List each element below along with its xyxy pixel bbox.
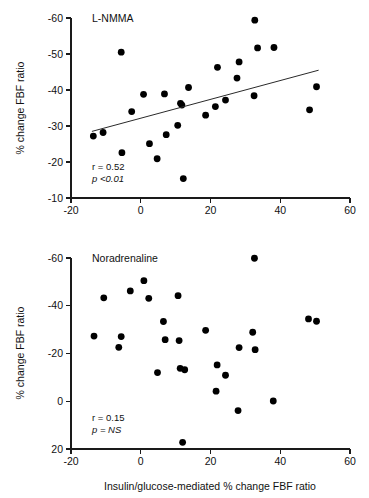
x-tick-label-top-1: 0 [138, 204, 144, 216]
x-tick-label-top-0: -20 [63, 204, 78, 216]
scatter-plot-l-nmma: -60-50-40-30-20-10 -200204060 L-NMMA r =… [0, 0, 369, 232]
data-point [118, 333, 125, 340]
data-point [236, 344, 243, 351]
data-point [270, 398, 277, 405]
data-point [145, 295, 152, 302]
data-point [140, 91, 147, 98]
y-ticks-bottom: -60-40-20020 [48, 252, 71, 455]
data-point [161, 91, 168, 98]
data-point [146, 140, 153, 147]
x-tick-label-top-4: 60 [344, 204, 356, 216]
data-point [90, 133, 97, 140]
y-tick-label-bot-3: 0 [57, 395, 63, 407]
data-point [213, 388, 220, 395]
data-point [127, 288, 134, 295]
data-point [235, 407, 242, 414]
data-point [181, 366, 188, 373]
data-point [163, 131, 170, 138]
data-point [236, 59, 243, 66]
data-point [180, 175, 187, 182]
y-tick-label-bot-4: 20 [51, 443, 63, 455]
y-tick-label-top-0: -60 [48, 12, 63, 24]
data-point [176, 337, 183, 344]
data-point [222, 97, 229, 104]
x-tick-label-bot-2: 20 [205, 455, 217, 467]
x-tick-label-bot-1: 0 [138, 455, 144, 467]
data-point [251, 17, 258, 24]
x-tick-label-top-2: 20 [205, 204, 217, 216]
y-tick-label-bot-2: -20 [48, 347, 63, 359]
data-point [154, 369, 161, 376]
panel-l-nmma: -60-50-40-30-20-10 -200204060 L-NMMA r =… [0, 0, 369, 232]
data-point [251, 255, 258, 262]
regression-line-top [92, 70, 319, 131]
stat-correlation-bottom: r = 0.15 [92, 412, 124, 423]
x-ticks-top: -200204060 [63, 198, 356, 216]
x-tick-label-bot-0: -20 [63, 455, 78, 467]
data-point [214, 362, 221, 369]
data-point [305, 315, 312, 322]
x-tick-label-bot-4: 60 [344, 455, 356, 467]
data-point [162, 336, 169, 343]
data-point [252, 346, 259, 353]
data-points-top [90, 17, 320, 182]
scatter-plot-noradrenaline: -60-40-20020 -200204060 Noradrenaline r … [0, 240, 369, 498]
y-tick-label-top-2: -40 [48, 84, 63, 96]
data-points-bottom [91, 255, 320, 446]
data-point [118, 49, 125, 56]
data-point [222, 372, 229, 379]
stat-correlation-top: r = 0.52 [92, 161, 124, 172]
data-point [251, 92, 258, 99]
y-tick-label-bot-0: -60 [48, 252, 63, 264]
data-point [249, 329, 256, 336]
data-point [202, 327, 209, 334]
x-tick-label-bot-3: 40 [274, 455, 286, 467]
y-axis-title-top: % change FBF ratio [14, 61, 26, 154]
stat-pvalue-top: p <0.01 [91, 173, 124, 184]
data-point [234, 75, 241, 82]
data-point [212, 103, 219, 110]
x-ticks-bottom: -200204060 [63, 449, 356, 467]
stat-pvalue-bottom: p = NS [91, 424, 122, 435]
data-point [175, 292, 182, 299]
figure-container: -60-50-40-30-20-10 -200204060 L-NMMA r =… [0, 0, 369, 498]
data-point [160, 318, 167, 325]
panel-noradrenaline: -60-40-20020 -200204060 Noradrenaline r … [0, 240, 369, 498]
y-tick-label-top-4: -20 [48, 156, 63, 168]
data-point [140, 277, 147, 284]
y-tick-label-bot-1: -40 [48, 299, 63, 311]
data-point [313, 318, 320, 325]
data-point [174, 122, 181, 129]
data-point [271, 44, 278, 51]
data-point [115, 344, 122, 351]
data-point [214, 64, 221, 71]
data-point [202, 112, 209, 119]
y-tick-label-top-1: -50 [48, 48, 63, 60]
data-point [306, 106, 313, 113]
data-point [313, 83, 320, 90]
data-point [254, 44, 261, 51]
y-ticks-top: -60-50-40-30-20-10 [48, 12, 71, 204]
data-point [91, 333, 98, 340]
y-tick-label-top-5: -10 [48, 192, 63, 204]
data-point [100, 129, 107, 136]
panel-title-noradrenaline: Noradrenaline [92, 252, 158, 264]
data-point [154, 155, 161, 162]
y-tick-label-top-3: -30 [48, 120, 63, 132]
data-point [119, 149, 126, 156]
y-axis-title-bottom: % change FBF ratio [14, 306, 26, 399]
data-point [185, 84, 192, 91]
x-tick-label-top-3: 40 [274, 204, 286, 216]
data-point [100, 294, 107, 301]
panel-title-l-nmma: L-NMMA [92, 12, 133, 24]
x-axis-title: Insulin/glucose-mediated % change FBF ra… [104, 480, 316, 492]
data-point [128, 108, 135, 115]
data-point [179, 439, 186, 446]
